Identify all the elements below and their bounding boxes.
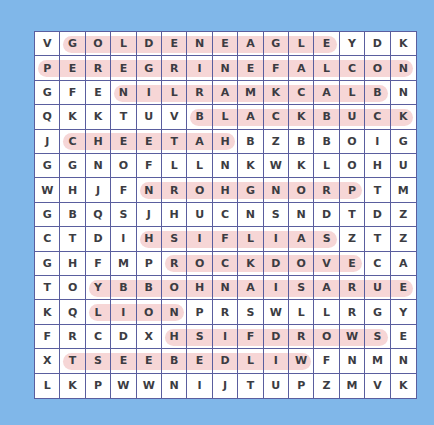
grid-cell-r1-c9[interactable]: F [264, 56, 289, 80]
grid-cell-r4-c7[interactable]: H [213, 130, 238, 154]
grid-cell-r3-c2[interactable]: K [86, 105, 111, 129]
grid-cell-r10-c0[interactable]: T [35, 276, 60, 300]
grid-cell-r8-c12[interactable]: Z [340, 227, 365, 251]
grid-cell-r6-c9[interactable]: N [264, 178, 289, 202]
grid-cell-r7-c2[interactable]: Q [86, 203, 111, 227]
grid-cell-r9-c3[interactable]: M [111, 252, 136, 276]
grid-cell-r11-c12[interactable]: R [340, 300, 365, 324]
grid-cell-r13-c3[interactable]: E [111, 349, 136, 373]
grid-cell-r3-c12[interactable]: U [340, 105, 365, 129]
grid-cell-r1-c13[interactable]: O [365, 56, 390, 80]
grid-cell-r1-c10[interactable]: A [289, 56, 314, 80]
grid-cell-r3-c0[interactable]: Q [35, 105, 60, 129]
grid-cell-r3-c4[interactable]: U [137, 105, 162, 129]
grid-cell-r2-c13[interactable]: B [365, 81, 390, 105]
grid-cell-r9-c8[interactable]: K [238, 252, 263, 276]
grid-cell-r1-c3[interactable]: E [111, 56, 136, 80]
grid-cell-r0-c9[interactable]: G [264, 32, 289, 56]
grid-cell-r9-c6[interactable]: O [187, 252, 212, 276]
grid-cell-r0-c1[interactable]: G [60, 32, 85, 56]
grid-cell-r6-c8[interactable]: G [238, 178, 263, 202]
grid-cell-r7-c8[interactable]: N [238, 203, 263, 227]
grid-cell-r10-c10[interactable]: S [289, 276, 314, 300]
grid-cell-r9-c2[interactable]: F [86, 252, 111, 276]
grid-cell-r7-c10[interactable]: N [289, 203, 314, 227]
grid-cell-r10-c4[interactable]: B [137, 276, 162, 300]
grid-cell-r13-c11[interactable]: F [314, 349, 339, 373]
grid-cell-r13-c2[interactable]: S [86, 349, 111, 373]
grid-cell-r12-c3[interactable]: D [111, 325, 136, 349]
grid-cell-r2-c9[interactable]: K [264, 81, 289, 105]
grid-cell-r9-c9[interactable]: D [264, 252, 289, 276]
grid-cell-r2-c8[interactable]: M [238, 81, 263, 105]
grid-cell-r13-c6[interactable]: E [187, 349, 212, 373]
grid-cell-r9-c5[interactable]: R [162, 252, 187, 276]
grid-cell-r12-c13[interactable]: S [365, 325, 390, 349]
grid-cell-r12-c11[interactable]: O [314, 325, 339, 349]
grid-cell-r5-c12[interactable]: O [340, 154, 365, 178]
grid-cell-r8-c10[interactable]: A [289, 227, 314, 251]
grid-cell-r0-c4[interactable]: D [137, 32, 162, 56]
grid-cell-r6-c2[interactable]: J [86, 178, 111, 202]
grid-cell-r7-c12[interactable]: T [340, 203, 365, 227]
grid-cell-r8-c8[interactable]: L [238, 227, 263, 251]
grid-cell-r8-c2[interactable]: D [86, 227, 111, 251]
grid-cell-r4-c4[interactable]: E [137, 130, 162, 154]
grid-cell-r5-c5[interactable]: L [162, 154, 187, 178]
grid-cell-r8-c11[interactable]: S [314, 227, 339, 251]
grid-cell-r3-c13[interactable]: C [365, 105, 390, 129]
grid-cell-r14-c9[interactable]: U [264, 374, 289, 398]
grid-cell-r8-c7[interactable]: F [213, 227, 238, 251]
grid-cell-r4-c0[interactable]: J [35, 130, 60, 154]
grid-cell-r5-c11[interactable]: L [314, 154, 339, 178]
grid-cell-r3-c1[interactable]: K [60, 105, 85, 129]
grid-cell-r11-c1[interactable]: Q [60, 300, 85, 324]
grid-cell-r12-c8[interactable]: F [238, 325, 263, 349]
grid-cell-r8-c14[interactable]: Z [391, 227, 416, 251]
grid-cell-r7-c3[interactable]: S [111, 203, 136, 227]
grid-cell-r8-c0[interactable]: C [35, 227, 60, 251]
grid-cell-r6-c6[interactable]: O [187, 178, 212, 202]
grid-cell-r2-c3[interactable]: N [111, 81, 136, 105]
grid-cell-r9-c0[interactable]: G [35, 252, 60, 276]
grid-cell-r5-c6[interactable]: L [187, 154, 212, 178]
grid-cell-r12-c14[interactable]: E [391, 325, 416, 349]
grid-cell-r10-c3[interactable]: B [111, 276, 136, 300]
grid-cell-r5-c8[interactable]: K [238, 154, 263, 178]
grid-cell-r1-c2[interactable]: R [86, 56, 111, 80]
grid-cell-r5-c4[interactable]: F [137, 154, 162, 178]
grid-cell-r7-c0[interactable]: G [35, 203, 60, 227]
grid-cell-r3-c5[interactable]: V [162, 105, 187, 129]
grid-cell-r10-c2[interactable]: Y [86, 276, 111, 300]
grid-cell-r6-c11[interactable]: R [314, 178, 339, 202]
grid-cell-r5-c2[interactable]: N [86, 154, 111, 178]
grid-cell-r11-c4[interactable]: O [137, 300, 162, 324]
grid-cell-r1-c8[interactable]: E [238, 56, 263, 80]
grid-cell-r4-c2[interactable]: H [86, 130, 111, 154]
grid-cell-r0-c3[interactable]: L [111, 32, 136, 56]
grid-cell-r0-c0[interactable]: V [35, 32, 60, 56]
grid-cell-r9-c1[interactable]: H [60, 252, 85, 276]
grid-cell-r13-c1[interactable]: T [60, 349, 85, 373]
grid-cell-r9-c11[interactable]: V [314, 252, 339, 276]
grid-cell-r11-c0[interactable]: K [35, 300, 60, 324]
grid-cell-r11-c7[interactable]: R [213, 300, 238, 324]
grid-cell-r11-c13[interactable]: G [365, 300, 390, 324]
grid-cell-r9-c13[interactable]: C [365, 252, 390, 276]
grid-cell-r10-c9[interactable]: I [264, 276, 289, 300]
grid-cell-r6-c0[interactable]: W [35, 178, 60, 202]
grid-cell-r10-c14[interactable]: E [391, 276, 416, 300]
grid-cell-r5-c0[interactable]: G [35, 154, 60, 178]
grid-cell-r13-c14[interactable]: N [391, 349, 416, 373]
grid-cell-r6-c14[interactable]: M [391, 178, 416, 202]
grid-cell-r4-c1[interactable]: C [60, 130, 85, 154]
grid-cell-r2-c0[interactable]: G [35, 81, 60, 105]
grid-cell-r0-c5[interactable]: E [162, 32, 187, 56]
grid-cell-r2-c1[interactable]: F [60, 81, 85, 105]
grid-cell-r14-c7[interactable]: J [213, 374, 238, 398]
grid-cell-r8-c3[interactable]: I [111, 227, 136, 251]
grid-cell-r7-c11[interactable]: D [314, 203, 339, 227]
grid-cell-r13-c7[interactable]: D [213, 349, 238, 373]
grid-cell-r10-c1[interactable]: O [60, 276, 85, 300]
grid-cell-r0-c13[interactable]: D [365, 32, 390, 56]
